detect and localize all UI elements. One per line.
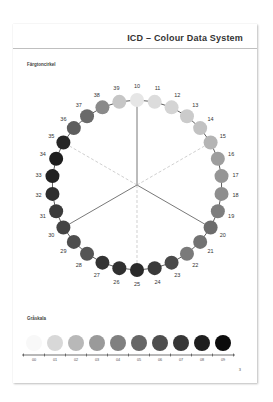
grayscale-label: Gråskala	[27, 316, 46, 321]
gray-step-02	[68, 335, 84, 351]
hue-dot-label: 23	[174, 272, 180, 278]
hue-dot-label: 39	[113, 85, 119, 91]
hue-dot-label: 10	[134, 83, 140, 89]
hue-dot-19	[211, 204, 225, 218]
hue-dot-label: 30	[48, 232, 54, 238]
hue-dot-31	[49, 204, 63, 218]
hue-dot-12	[165, 100, 179, 114]
hue-dot-38	[95, 100, 109, 114]
hue-dot-32	[45, 187, 59, 201]
hue-dot-label: 33	[35, 172, 41, 178]
hue-circle-spokes	[63, 100, 210, 270]
gray-step-05	[131, 335, 147, 351]
hue-dot-21	[193, 235, 207, 249]
grayscale-bar: 00010203040506070809	[22, 335, 235, 362]
hue-dot-22	[180, 247, 194, 261]
hue-dot-14	[193, 121, 207, 135]
hue-dot-18	[215, 187, 229, 201]
hue-dot-label: 13	[192, 102, 198, 108]
hue-dot-label: 18	[232, 192, 238, 198]
hue-dot-label: 31	[40, 213, 46, 219]
spoke-solid-20	[137, 185, 211, 228]
hue-dot-label: 32	[35, 192, 41, 198]
hue-dot-label: 16	[228, 151, 234, 157]
hue-dot-label: 36	[60, 116, 66, 122]
spoke-dashed-15	[137, 143, 211, 186]
hue-dot-label: 21	[208, 248, 214, 254]
hue-dot-label: 17	[232, 172, 238, 178]
hue-dot-label: 26	[113, 279, 119, 285]
hue-dot-36	[67, 121, 81, 135]
hue-dot-34	[49, 152, 63, 166]
hue-dot-33	[45, 169, 59, 183]
gray-step-label: 09	[221, 358, 225, 362]
hue-dot-30	[56, 221, 70, 235]
spoke-solid-30	[63, 185, 137, 228]
hue-dot-label: 34	[40, 151, 46, 157]
hue-dot-label: 14	[208, 116, 214, 122]
hue-dot-label: 12	[174, 92, 180, 98]
gray-step-label: 00	[32, 358, 36, 362]
hue-dot-label: 37	[76, 102, 82, 108]
hue-dot-23	[165, 256, 179, 270]
gray-step-label: 03	[95, 358, 99, 362]
hue-dot-28	[80, 247, 94, 261]
hue-dot-11	[148, 95, 162, 109]
gray-step-04	[110, 335, 126, 351]
gray-step-label: 02	[74, 358, 78, 362]
hue-dot-13	[180, 109, 194, 123]
hue-dot-37	[80, 109, 94, 123]
hue-dot-16	[211, 152, 225, 166]
spoke-dashed-35	[63, 143, 137, 186]
hue-dot-label: 11	[155, 85, 161, 91]
hue-dot-label: 29	[60, 248, 66, 254]
gray-step-label: 05	[137, 358, 141, 362]
hue-dot-39	[112, 95, 126, 109]
hue-dot-24	[148, 261, 162, 275]
hue-dot-label: 20	[220, 232, 226, 238]
hue-dot-label: 25	[134, 281, 140, 287]
gray-step-label: 06	[158, 358, 162, 362]
hue-dot-label: 15	[220, 133, 226, 139]
gray-step-03	[89, 335, 105, 351]
hue-dot-label: 24	[155, 279, 161, 285]
gray-step-08	[194, 335, 210, 351]
hue-dot-label: 27	[94, 272, 100, 278]
hue-dot-26	[112, 261, 126, 275]
hue-dot-label: 19	[228, 213, 234, 219]
hue-dot-label: 28	[76, 262, 82, 268]
hue-dot-label: 35	[48, 133, 54, 139]
hue-dot-25	[130, 263, 144, 277]
document-page: ICD – Colour Data System Färgtoncirkel 1…	[13, 24, 257, 383]
hue-dot-15	[204, 136, 218, 150]
gray-step-07	[173, 335, 189, 351]
page-number: 3	[239, 367, 241, 372]
gray-step-label: 01	[53, 358, 57, 362]
hue-dot-27	[95, 256, 109, 270]
gray-step-label: 08	[200, 358, 204, 362]
hue-dot-35	[56, 136, 70, 150]
hue-dot-17	[215, 169, 229, 183]
gray-step-06	[152, 335, 168, 351]
gray-step-09	[215, 335, 231, 351]
hue-dot-label: 22	[192, 262, 198, 268]
hue-dot-10	[130, 93, 144, 107]
hue-circle-diagram: 1011121314151617181920212223242526272829…	[13, 24, 257, 383]
gray-step-01	[47, 335, 63, 351]
hue-dot-label: 38	[94, 92, 100, 98]
gray-step-label: 04	[116, 358, 120, 362]
hue-dot-29	[67, 235, 81, 249]
gray-step-00	[26, 335, 42, 351]
hue-dot-20	[204, 221, 218, 235]
gray-step-label: 07	[179, 358, 183, 362]
